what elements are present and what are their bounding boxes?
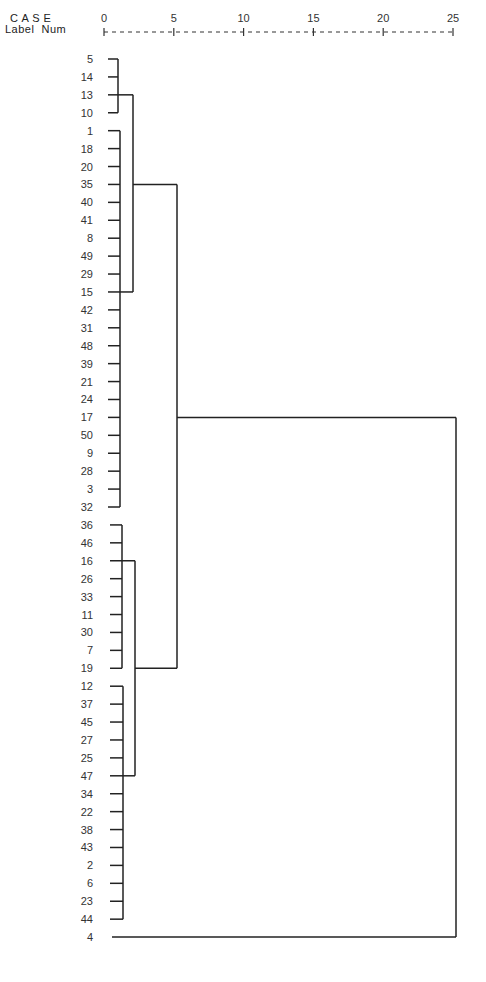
leaf-label: 31: [81, 322, 93, 334]
leaf-label: 50: [81, 429, 93, 441]
leaf-label: 32: [81, 501, 93, 513]
leaf-label: 41: [81, 214, 93, 226]
leaf-label: 46: [81, 537, 93, 549]
leaf-label: 30: [81, 626, 93, 638]
leaf-label: 3: [87, 483, 93, 495]
leaf-label: 20: [81, 161, 93, 173]
leaf-label: 43: [81, 841, 93, 853]
leaf-label: 14: [81, 71, 93, 83]
leaf-label: 18: [81, 143, 93, 155]
leaf-label: 9: [87, 447, 93, 459]
leaf-label: 48: [81, 340, 93, 352]
leaf-label: 23: [81, 895, 93, 907]
leaf-label: 11: [82, 609, 93, 621]
dendrogram: 0510152025514131011820354041849291542314…: [0, 0, 486, 982]
leaf-label: 28: [81, 465, 93, 477]
leaf-label: 15: [81, 286, 93, 298]
leaf-label: 42: [81, 304, 93, 316]
leaf-label: 35: [81, 178, 93, 190]
leaf-label: 34: [81, 788, 93, 800]
axis-tick-label: 25: [447, 12, 459, 24]
leaf-label: 7: [87, 644, 93, 656]
leaf-label: 27: [81, 734, 93, 746]
leaf-label: 6: [87, 877, 93, 889]
leaf-label: 5: [87, 53, 93, 65]
axis-tick-label: 0: [101, 12, 107, 24]
leaf-label: 45: [81, 716, 93, 728]
leaf-label: 2: [87, 859, 93, 871]
leaf-label: 17: [81, 411, 93, 423]
leaf-label: 36: [81, 519, 93, 531]
leaf-label: 25: [81, 752, 93, 764]
leaf-label: 4: [87, 931, 93, 943]
leaf-label: 12: [81, 680, 93, 692]
leaf-label: 39: [81, 358, 93, 370]
leaf-label: 37: [81, 698, 93, 710]
leaf-label: 44: [81, 913, 93, 925]
leaf-label: 26: [81, 573, 93, 585]
leaf-label: 1: [87, 125, 93, 137]
axis-tick-label: 5: [171, 12, 177, 24]
leaf-label: 24: [81, 393, 93, 405]
leaf-label: 13: [81, 89, 93, 101]
leaf-label: 19: [81, 662, 93, 674]
axis-tick-label: 10: [237, 12, 249, 24]
leaf-label: 29: [81, 268, 93, 280]
leaf-label: 16: [81, 555, 93, 567]
leaf-label: 33: [81, 591, 93, 603]
axis-tick-label: 20: [377, 12, 389, 24]
axis-tick-label: 15: [307, 12, 319, 24]
leaf-label: 49: [81, 250, 93, 262]
leaf-label: 22: [81, 806, 93, 818]
leaf-label: 8: [87, 232, 93, 244]
leaf-label: 21: [81, 376, 93, 388]
leaf-label: 38: [81, 824, 93, 836]
leaf-label: 10: [81, 107, 93, 119]
leaf-label: 47: [81, 770, 93, 782]
leaf-label: 40: [81, 196, 93, 208]
